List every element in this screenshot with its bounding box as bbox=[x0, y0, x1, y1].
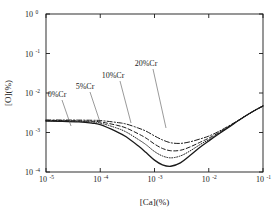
series-curve-5cr bbox=[46, 106, 263, 158]
x-tick-label-0: 10-5 bbox=[39, 174, 54, 185]
plot-frame bbox=[46, 14, 263, 172]
x-tick-label-3: 10-2 bbox=[202, 174, 217, 185]
series-curve-20cr bbox=[46, 106, 263, 143]
y-tick-exponent-0: 0 bbox=[36, 9, 39, 15]
y-tick-mantissa-0: 10 bbox=[25, 10, 33, 19]
x-tick-exponent-1: -4 bbox=[104, 174, 109, 180]
series-curve-10cr bbox=[46, 106, 263, 151]
x-tick-mantissa-1: 10 bbox=[93, 175, 101, 184]
series-curve-0cr bbox=[46, 106, 263, 166]
y-tick-label-3: 10-3 bbox=[25, 127, 40, 138]
x-axis-title: [Ca](%) bbox=[140, 197, 169, 207]
annotation-leader-3 bbox=[153, 69, 166, 128]
x-tick-mantissa-3: 10 bbox=[202, 175, 210, 184]
y-tick-label-2: 10-2 bbox=[25, 88, 40, 99]
x-tick-label-1: 10-4 bbox=[93, 174, 108, 185]
annotation-label-0: 0%Cr bbox=[48, 90, 67, 99]
y-tick-exponent-2: -2 bbox=[36, 88, 41, 94]
x-tick-label-2: 10-3 bbox=[148, 174, 163, 185]
y-tick-mantissa-2: 10 bbox=[25, 89, 33, 98]
y-axis-title: [O](%) bbox=[3, 80, 13, 106]
x-tick-exponent-0: -5 bbox=[50, 174, 55, 180]
y-tick-label-0: 100 bbox=[25, 9, 39, 20]
chart-figure: 10-510-410-310-210-110010-110-210-310-4[… bbox=[0, 0, 277, 209]
annotation-leader-0 bbox=[62, 100, 71, 126]
x-tick-label-4: 10-1 bbox=[256, 174, 271, 185]
x-tick-mantissa-4: 10 bbox=[256, 175, 264, 184]
annotation-label-2: 10%Cr bbox=[102, 71, 125, 80]
x-tick-exponent-3: -2 bbox=[212, 174, 217, 180]
y-tick-exponent-1: -1 bbox=[36, 48, 41, 54]
annotation-label-3: 20%Cr bbox=[135, 59, 158, 68]
y-tick-exponent-4: -4 bbox=[36, 167, 41, 173]
y-tick-exponent-3: -3 bbox=[36, 127, 41, 133]
x-tick-exponent-2: -3 bbox=[158, 174, 163, 180]
y-tick-mantissa-4: 10 bbox=[25, 168, 33, 177]
x-tick-mantissa-0: 10 bbox=[39, 175, 47, 184]
annotation-leader-2 bbox=[120, 81, 131, 123]
x-tick-exponent-4: -1 bbox=[267, 174, 272, 180]
y-tick-label-1: 10-1 bbox=[25, 48, 40, 59]
annotation-label-1: 5%Cr bbox=[76, 82, 95, 91]
y-tick-mantissa-1: 10 bbox=[25, 50, 33, 59]
y-tick-mantissa-3: 10 bbox=[25, 129, 33, 138]
x-tick-mantissa-2: 10 bbox=[148, 175, 156, 184]
log-log-plot: 10-510-410-310-210-110010-110-210-310-4[… bbox=[0, 0, 277, 209]
